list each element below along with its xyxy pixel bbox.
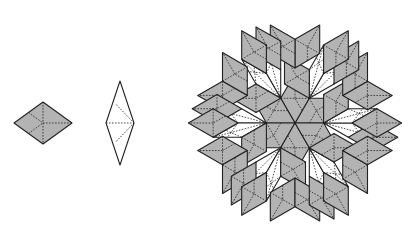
tiling-patch xyxy=(188,25,401,221)
prototiles xyxy=(14,81,134,165)
tiling-figure xyxy=(0,0,420,247)
